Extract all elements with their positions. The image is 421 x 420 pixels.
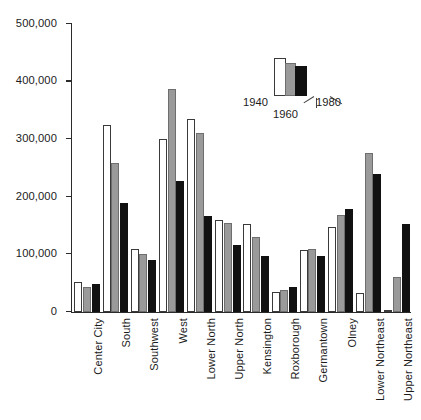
category-label: Upper North [233,318,245,380]
legend-leader-left [304,96,315,103]
bar-1940 [131,249,139,312]
bar-1940 [328,227,336,312]
bar-1980 [204,216,212,312]
y-tick-label: 400,000 [16,74,57,86]
legend-label-1960: 1960 [273,108,298,120]
bar-group [215,24,240,312]
bar-1980 [176,181,184,312]
bar-1940 [384,310,392,312]
bar-1980 [92,284,100,312]
bar-1940 [187,119,195,312]
bar-1960 [196,133,204,312]
bar-1960 [168,89,176,312]
bar-1940 [300,250,308,312]
bar-1940 [243,224,251,312]
bar-1960 [393,277,401,312]
chart-legend: 1940 1960 1980 [243,58,393,120]
legend-swatch-1980 [295,66,307,96]
y-tick-500000: 500,000 [66,23,72,24]
category-label: Southwest [148,318,160,371]
bar-1940 [215,220,223,312]
bar-1940 [103,125,111,312]
y-tick-0: 0 [66,311,72,312]
bar-group [103,24,128,312]
bar-1940 [159,139,167,312]
bar-1960 [252,237,260,312]
bar-1940 [356,293,364,312]
legend-swatches [274,58,308,96]
y-tick-200000: 200,000 [66,196,72,197]
bar-1980 [148,260,156,312]
legend-label-1940: 1940 [243,96,268,108]
category-label: West [177,318,189,343]
bar-1960 [111,163,119,312]
bar-1940 [272,292,280,312]
y-tick-100000: 100,000 [66,253,72,254]
y-tick-label: 100,000 [16,247,57,259]
population-bar-chart: 0100,000200,000300,000400,000500,000 Cen… [0,0,421,420]
y-tick-400000: 400,000 [66,80,72,81]
legend-label-1980: 1980 [316,96,341,108]
y-tick-label: 500,000 [16,17,57,29]
bar-1980 [120,203,128,312]
bar-1960 [308,249,316,312]
category-label: Roxborough [289,318,301,379]
bar-1960 [83,287,91,312]
bar-1980 [289,287,297,312]
x-axis-line [71,312,411,313]
category-label: South [120,318,132,348]
category-label: Germantown [317,318,329,382]
category-label: Lower North [205,318,217,380]
category-label: Olney [346,318,358,348]
bar-group [131,24,156,312]
bar-1980 [261,256,269,312]
bar-group [159,24,184,312]
bar-1980 [373,174,381,312]
bar-1960 [337,215,345,312]
bar-group [74,24,99,312]
bar-group [187,24,212,312]
bar-1940 [74,282,82,312]
category-label: Kensington [261,318,273,375]
bar-1960 [224,223,232,312]
category-label: Lower Northeast [374,318,386,401]
bar-1960 [280,290,288,312]
bar-1960 [365,153,373,312]
bar-1980 [402,224,410,312]
bar-1980 [317,256,325,312]
y-tick-label: 200,000 [16,190,57,202]
y-tick-label: 300,000 [16,132,57,144]
bar-1960 [139,254,147,312]
y-tick-label: 0 [51,305,57,317]
category-label: Center City [92,318,104,375]
bar-1980 [233,245,241,312]
bar-1980 [345,209,353,312]
y-tick-300000: 300,000 [66,138,72,139]
category-label: Upper Northeast [402,318,414,401]
